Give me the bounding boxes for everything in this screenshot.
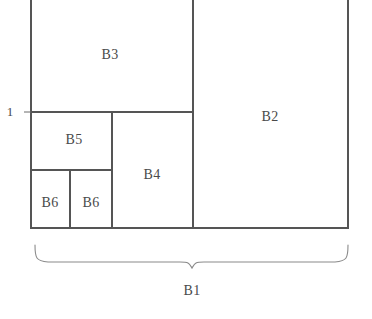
block-label-b4: B4	[144, 168, 161, 182]
height-dimension-label: 1	[7, 105, 14, 118]
brace-left-half	[35, 245, 192, 268]
width-brace-label: B1	[184, 284, 201, 298]
rectangle-subdivision-svg	[0, 0, 372, 319]
block-label-b5: B5	[66, 133, 83, 147]
block-label-b2: B2	[262, 110, 279, 124]
figure-canvas: B2 B3 B4 B5 B6 B6 1 B1	[0, 0, 372, 319]
brace-right-half	[192, 245, 348, 268]
block-label-b6-right: B6	[83, 196, 100, 210]
block-label-b6-left: B6	[42, 196, 59, 210]
width-brace	[35, 245, 348, 268]
block-label-b3: B3	[102, 48, 119, 62]
outer-rect-path	[31, 0, 348, 228]
block-outlines	[31, 0, 348, 228]
